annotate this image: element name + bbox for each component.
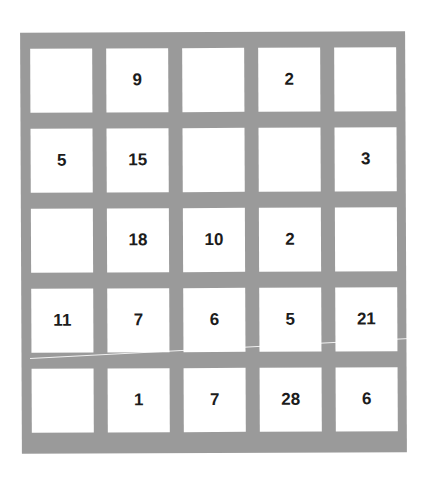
cell-r3c3[interactable]: 10: [183, 208, 245, 272]
cell-r2c2[interactable]: 15: [107, 128, 169, 192]
cell-r1c3[interactable]: [182, 48, 244, 112]
cell-r2c5[interactable]: 3: [334, 127, 396, 191]
cell-r5c1[interactable]: [32, 369, 94, 433]
puzzle-board: 9 2 5 15 3 18 10 2 11 7 6 5 21 1 7 28 6: [20, 31, 407, 454]
cell-r1c5[interactable]: [334, 47, 396, 111]
cell-r1c4[interactable]: 2: [258, 48, 320, 112]
cell-r2c3[interactable]: [183, 128, 245, 192]
cell-r5c4[interactable]: 28: [260, 368, 322, 432]
cell-r2c4[interactable]: [258, 128, 320, 192]
cell-r3c4[interactable]: 2: [259, 208, 321, 272]
cell-r3c1[interactable]: [31, 209, 93, 273]
cell-r4c1[interactable]: 11: [31, 289, 93, 353]
cell-r4c4[interactable]: 5: [259, 288, 321, 352]
cell-r5c5[interactable]: 6: [336, 367, 398, 431]
cell-r5c2[interactable]: 1: [108, 368, 170, 432]
cell-r4c2[interactable]: 7: [107, 288, 169, 352]
cell-r1c1[interactable]: [30, 49, 92, 113]
cell-r2c1[interactable]: 5: [31, 129, 93, 193]
cell-r4c3[interactable]: 6: [183, 288, 245, 352]
cell-r5c3[interactable]: 7: [184, 368, 246, 432]
puzzle-grid: 9 2 5 15 3 18 10 2 11 7 6 5 21 1 7 28 6: [30, 47, 398, 433]
cell-r3c5[interactable]: [335, 207, 397, 271]
cell-r1c2[interactable]: 9: [106, 48, 168, 112]
cell-r3c2[interactable]: 18: [107, 208, 169, 272]
